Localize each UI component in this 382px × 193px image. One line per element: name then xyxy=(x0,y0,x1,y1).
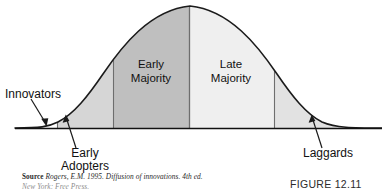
figure-page: Early Majority Late Majority Innovators … xyxy=(0,0,382,193)
late-majority-label-line2: Majority xyxy=(211,72,252,84)
early-adopters-label-line1: Early xyxy=(71,146,98,160)
bell-curve-segments xyxy=(15,0,382,128)
segment-laggards xyxy=(274,0,382,128)
source-note-line2: New York: Free Press. xyxy=(22,182,252,191)
early-majority-label-line2: Majority xyxy=(131,72,172,84)
late-majority-label-line1: Late xyxy=(220,58,242,70)
diffusion-of-innovations-chart: Early Majority Late Majority Innovators … xyxy=(0,0,382,193)
innovators-label: Innovators xyxy=(5,87,61,101)
segment-early-adopters xyxy=(57,0,113,128)
early-adopters-label-line2: Adopters xyxy=(61,159,109,173)
early-adopters-label-group: Early Adopters xyxy=(61,146,109,173)
figure-caption: FIGURE 12.11 xyxy=(290,178,362,190)
source-note-keyword: Source xyxy=(22,173,44,181)
laggards-label: Laggards xyxy=(303,146,353,160)
early-majority-label-line1: Early xyxy=(138,58,164,70)
source-note: Source Rogers, E.M. 1995. Diffusion of i… xyxy=(22,172,252,191)
innovators-leader xyxy=(31,99,48,127)
segment-innovators xyxy=(15,0,57,128)
source-note-line1: Rogers, E.M. 1995. Diffusion of innovati… xyxy=(46,172,203,181)
innovators-leader-line xyxy=(31,99,45,122)
